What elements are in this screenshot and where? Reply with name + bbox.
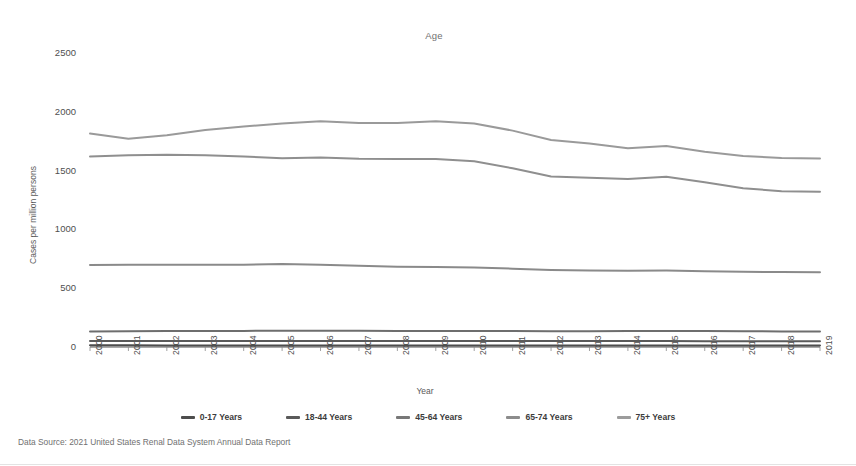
legend-item[interactable]: 45-64 Years [396, 412, 462, 422]
legend-swatch-icon [396, 416, 410, 419]
legend-item[interactable]: 18-44 Years [286, 412, 352, 422]
legend-swatch-icon [181, 416, 195, 419]
legend-label: 0-17 Years [200, 412, 242, 422]
legend-label: 45-64 Years [415, 412, 462, 422]
bottom-divider [0, 464, 856, 465]
legend-item[interactable]: 65-74 Years [506, 412, 572, 422]
series-line [90, 121, 820, 158]
data-source-note: Data Source: 2021 United States Renal Da… [18, 437, 290, 447]
plot-area [0, 0, 856, 466]
legend-swatch-icon [617, 416, 631, 419]
legend-item[interactable]: 75+ Years [617, 412, 676, 422]
chart-container: Age Cases per million persons 0500100015… [0, 0, 856, 466]
chart-legend: 0-17 Years18-44 Years45-64 Years65-74 Ye… [0, 412, 856, 422]
legend-label: 75+ Years [636, 412, 676, 422]
series-line [90, 264, 820, 272]
series-line [90, 155, 820, 192]
legend-swatch-icon [506, 416, 520, 419]
legend-label: 18-44 Years [305, 412, 352, 422]
legend-swatch-icon [286, 416, 300, 419]
series-line [90, 331, 820, 332]
legend-item[interactable]: 0-17 Years [181, 412, 242, 422]
legend-label: 65-74 Years [525, 412, 572, 422]
